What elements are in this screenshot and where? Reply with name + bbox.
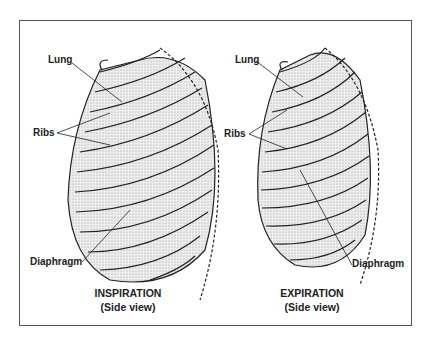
inspiration-caption-sub: (Side view) [68,300,188,314]
inspiration-diaphragm-label: Diaphragm [30,256,82,267]
expiration-ribs-label: Ribs [224,128,246,139]
expiration-diaphragm-label: Diaphragm [352,258,404,269]
inspiration-caption: INSPIRATION (Side view) [68,286,188,314]
inspiration-caption-title: INSPIRATION [68,286,188,300]
inspiration-ribs-label: Ribs [33,127,55,138]
expiration-caption-sub: (Side view) [252,300,372,314]
expiration-caption: EXPIRATION (Side view) [252,286,372,314]
inspiration-ribcage-drawing [68,48,219,300]
expiration-lung-label: Lung [235,54,259,65]
inspiration-lung-label: Lung [48,54,72,65]
expiration-ribcage-drawing [258,48,379,285]
expiration-caption-title: EXPIRATION [252,286,372,300]
